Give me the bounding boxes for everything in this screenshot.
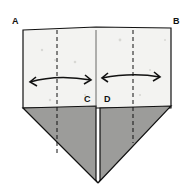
- label-c: C: [84, 95, 91, 104]
- label-b: B: [173, 17, 180, 26]
- label-d: D: [104, 95, 111, 104]
- label-a: A: [12, 17, 19, 26]
- right-flap-shaded: [98, 106, 171, 183]
- left-flap-shaded: [23, 106, 98, 183]
- origami-diagram: [0, 0, 184, 189]
- paper-upper-white: [23, 27, 171, 108]
